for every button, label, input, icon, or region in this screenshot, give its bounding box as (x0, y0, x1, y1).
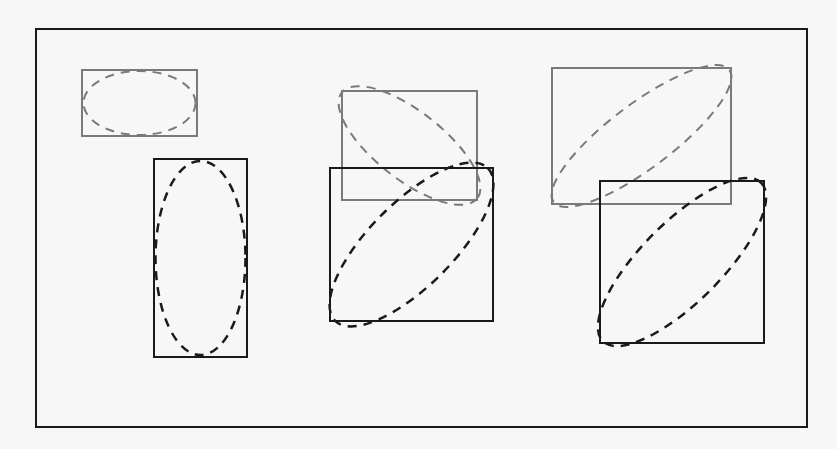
diagram-canvas (0, 0, 837, 449)
diagram-svg (0, 0, 837, 449)
